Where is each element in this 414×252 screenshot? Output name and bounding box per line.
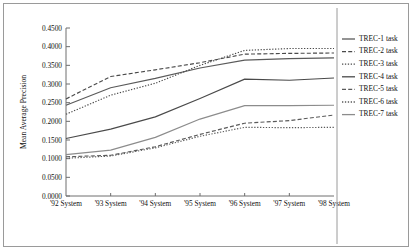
figure-frame: 0.00000.05000.10000.15000.20000.25000.30… <box>3 3 409 247</box>
legend: TREC-1 taskTREC-2 taskTREC-3 taskTREC-4 … <box>342 34 398 119</box>
chart-svg: 0.00000.05000.10000.15000.20000.25000.30… <box>4 4 410 248</box>
x-tick-label: '98 System <box>318 199 350 208</box>
series-line-4 <box>66 78 334 138</box>
y-tick-label: 0.3000 <box>42 80 62 89</box>
series-lines <box>66 49 334 159</box>
series-line-2 <box>66 53 334 99</box>
legend-label-6: TREC-6 task <box>359 97 398 106</box>
y-axis-tick-marks <box>66 28 70 196</box>
y-tick-label: 0.4000 <box>42 42 62 51</box>
x-tick-label: '97 System <box>273 199 305 208</box>
y-tick-label: 0.4500 <box>42 24 62 33</box>
x-tick-label: '96 System <box>229 199 261 208</box>
legend-label-3: TREC-3 task <box>359 59 398 68</box>
x-axis-tick-labels: '92 System'93 System'94 System'95 System… <box>50 199 350 208</box>
x-tick-label: '94 System <box>139 199 171 208</box>
y-tick-label: 0.3500 <box>42 61 62 70</box>
x-tick-label: '92 System <box>50 199 82 208</box>
y-tick-label: 0.1500 <box>42 136 62 145</box>
legend-label-1: TREC-1 task <box>359 34 398 43</box>
x-tick-label: '93 System <box>95 199 127 208</box>
x-tick-label: '95 System <box>184 199 216 208</box>
series-line-6 <box>66 127 334 158</box>
y-axis-tick-labels: 0.00000.05000.10000.15000.20000.25000.30… <box>42 24 62 201</box>
legend-label-2: TREC-2 task <box>359 46 398 55</box>
y-tick-label: 0.0500 <box>42 173 62 182</box>
legend-label-7: TREC-7 task <box>359 109 398 118</box>
legend-label-5: TREC-5 task <box>359 84 398 93</box>
line-chart: 0.00000.05000.10000.15000.20000.25000.30… <box>4 4 410 248</box>
legend-label-4: TREC-4 task <box>359 72 398 81</box>
y-tick-label: 0.2500 <box>42 98 62 107</box>
y-tick-label: 0.1000 <box>42 154 62 163</box>
y-tick-label: 0.2000 <box>42 117 62 126</box>
y-axis-title: Mean Average Precision <box>19 75 28 149</box>
